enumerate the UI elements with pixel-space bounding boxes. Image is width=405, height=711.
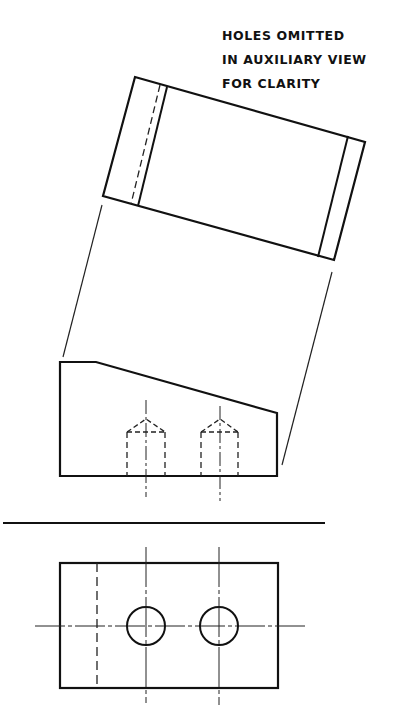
projection-line-left [63,205,102,357]
front-view [60,362,277,501]
auxiliary-view-note: HOLES OMITTED IN AUXILIARY VIEW FOR CLAR… [222,24,367,96]
auxiliary-view-outline [103,77,365,260]
projection-lines [63,205,332,465]
auxiliary-hidden-edge [131,85,160,204]
auxiliary-visible-edge-right [318,136,348,257]
note-line-2: IN AUXILIARY VIEW [222,48,367,72]
technical-drawing [0,0,405,711]
front-hole-2 [201,406,238,501]
front-hole-1 [127,400,165,497]
auxiliary-view [103,77,365,260]
note-line-1: HOLES OMITTED [222,24,367,48]
front-view-outline [60,362,277,476]
top-view [35,547,307,705]
note-line-3: FOR CLARITY [222,72,367,96]
projection-line-right [282,272,332,465]
auxiliary-visible-edge-left [138,87,167,206]
